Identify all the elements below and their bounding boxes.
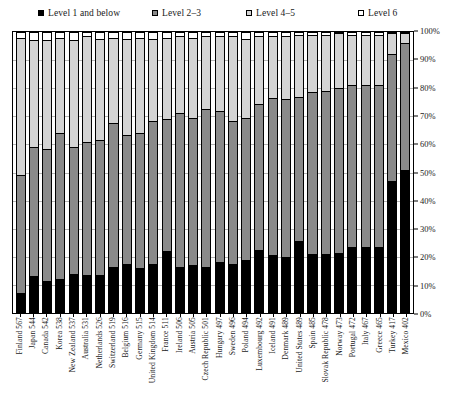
bar-column[interactable] <box>293 32 306 313</box>
legend-item-l6[interactable]: Level 6 <box>358 8 397 18</box>
bar-segment-level4-5 <box>30 40 38 147</box>
bar-stack <box>307 32 317 313</box>
bar-segment-level4-5 <box>335 33 343 88</box>
bar-segment-level2-3 <box>202 109 210 266</box>
bar-segment-level4-5 <box>56 38 64 134</box>
legend-item-l45[interactable]: Level 4–5 <box>246 8 295 18</box>
bar-segment-level2-3 <box>56 133 64 279</box>
legend-label: Level 2–3 <box>162 8 201 18</box>
x-label-column: Turkey 417 <box>386 315 399 393</box>
bar-column[interactable] <box>14 32 27 313</box>
bar-column[interactable] <box>213 32 226 313</box>
bar-column[interactable] <box>279 32 292 313</box>
bar-segment-level1-and-below <box>189 265 197 313</box>
x-label-column: Iceland 491 <box>266 315 279 393</box>
bar-stack <box>361 32 371 313</box>
x-tick-label: Ireland 506 <box>176 317 184 353</box>
legend-item-l23[interactable]: Level 2–3 <box>152 8 201 18</box>
bar-segment-level1-and-below <box>202 267 210 313</box>
chart-legend: Level 1 and belowLevel 2–3Level 4–5Level… <box>0 4 452 22</box>
bar-segment-level4-5 <box>362 35 370 86</box>
bar-column[interactable] <box>133 32 146 313</box>
bar-column[interactable] <box>160 32 173 313</box>
bar-segment-level1-and-below <box>96 275 104 313</box>
bar-segment-level2-3 <box>335 88 343 253</box>
x-label-column: Italy 467 <box>360 315 373 393</box>
bar-column[interactable] <box>147 32 160 313</box>
bar-column[interactable] <box>120 32 133 313</box>
bar-column[interactable] <box>186 32 199 313</box>
bar-column[interactable] <box>332 32 345 313</box>
x-tick-label: United States 489 <box>296 317 304 373</box>
x-label-column: Austria 505 <box>186 315 199 393</box>
bar-segment-level1-and-below <box>123 264 131 313</box>
bar-column[interactable] <box>240 32 253 313</box>
bar-stack <box>215 32 225 313</box>
bar-column[interactable] <box>94 32 107 313</box>
bar-stack <box>148 32 158 313</box>
x-tick-label: Iceland 491 <box>269 317 277 354</box>
x-label-column: Luxembourg 492 <box>253 315 266 393</box>
legend-label: Level 6 <box>368 8 397 18</box>
bar-column[interactable] <box>226 32 239 313</box>
bar-column[interactable] <box>173 32 186 313</box>
bar-column[interactable] <box>385 32 398 313</box>
x-tick-label: Slovak Republic 478 <box>322 317 330 383</box>
bar-column[interactable] <box>54 32 67 313</box>
bar-column[interactable] <box>107 32 120 313</box>
bar-column[interactable] <box>200 32 213 313</box>
y-axis: 0%10%20%30%40%50%60%70%80%90%100% <box>414 31 452 314</box>
x-label-column: Spain 485 <box>306 315 319 393</box>
bar-segment-level2-3 <box>308 92 316 254</box>
x-label-column: Germany 515 <box>133 315 146 393</box>
bar-segment-level2-3 <box>70 147 78 273</box>
legend-item-l1[interactable]: Level 1 and below <box>38 8 120 18</box>
y-tick-label: 0% <box>414 310 431 319</box>
bar-segment-level2-3 <box>295 97 303 242</box>
bar-segment-level1-and-below <box>109 267 117 313</box>
bar-segment-level4-5 <box>295 35 303 97</box>
bar-stack <box>321 32 331 313</box>
bar-column[interactable] <box>319 32 332 313</box>
bar-segment-level4-5 <box>136 38 144 134</box>
bar-segment-level6 <box>149 32 157 39</box>
bar-column[interactable] <box>372 32 385 313</box>
bar-segment-level1-and-below <box>136 268 144 313</box>
x-label-column: Ireland 506 <box>173 315 186 393</box>
bar-column[interactable] <box>399 32 412 313</box>
bar-segment-level1-and-below <box>163 251 171 313</box>
bar-column[interactable] <box>41 32 54 313</box>
x-tick-label: Sweden 496 <box>229 317 237 355</box>
x-tick-label: France 511 <box>162 317 170 352</box>
legend-swatch-l6-icon <box>358 10 364 16</box>
bar-stack <box>29 32 39 313</box>
x-tick-label: Austria 505 <box>189 317 197 354</box>
bar-segment-level1-and-below <box>322 254 330 313</box>
bar-column[interactable] <box>306 32 319 313</box>
bar-column[interactable] <box>67 32 80 313</box>
bar-segment-level2-3 <box>388 54 396 180</box>
bar-segment-level1-and-below <box>216 262 224 313</box>
legend-label: Level 1 and below <box>48 8 120 18</box>
x-tick-label: Turkey 417 <box>389 317 397 353</box>
x-label-column: Mexico 402 <box>400 315 413 393</box>
bar-column[interactable] <box>27 32 40 313</box>
bar-segment-level6 <box>242 32 250 39</box>
bar-column[interactable] <box>266 32 279 313</box>
bar-column[interactable] <box>346 32 359 313</box>
legend-swatch-l1-icon <box>38 10 44 16</box>
bar-segment-level2-3 <box>149 121 157 264</box>
bar-stack <box>108 32 118 313</box>
bar-segment-level2-3 <box>43 149 51 281</box>
y-tick-label: 20% <box>414 253 436 262</box>
bar-column[interactable] <box>359 32 372 313</box>
x-tick-label: United Kingdom 514 <box>149 317 157 383</box>
bar-stack <box>334 32 344 313</box>
bar-column[interactable] <box>253 32 266 313</box>
x-label-column: Denmark 489 <box>280 315 293 393</box>
bar-segment-level1-and-below <box>348 247 356 313</box>
bar-segment-level1-and-below <box>295 241 303 313</box>
bar-stack <box>82 32 92 313</box>
bar-segment-level2-3 <box>189 118 197 266</box>
bar-column[interactable] <box>80 32 93 313</box>
